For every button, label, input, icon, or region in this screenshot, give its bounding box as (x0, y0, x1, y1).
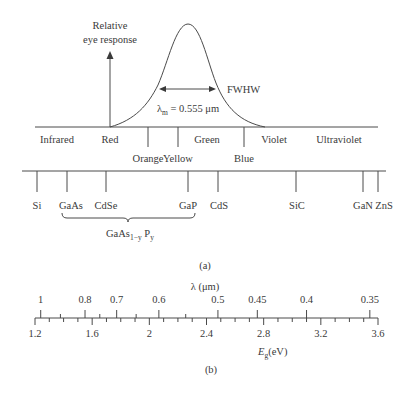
band-blue: Blue (234, 153, 254, 164)
wavelength-tick-label: 0.4 (300, 294, 314, 305)
energy-tick-label: 2.4 (200, 328, 214, 339)
wavelength-tick-label: 1 (38, 294, 43, 305)
wavelength-tick-label: 0.8 (78, 294, 91, 305)
wavelength-axis-label: λ (μm) (191, 281, 220, 293)
band-infrared: Infrared (40, 134, 75, 145)
wavelength-tick-label: 0.35 (361, 294, 379, 305)
band-red: Red (102, 134, 120, 145)
eye-response-section: Relative eye response FWHW λm = 0.555 μm (83, 20, 265, 127)
eye-response-label-line2: eye response (83, 34, 137, 45)
semi-gaas: GaAs (59, 200, 83, 211)
semi-cds: CdS (210, 200, 228, 211)
energy-tick-label: 1.6 (86, 328, 99, 339)
energy-tick-label: 1.2 (28, 328, 41, 339)
axis-section: λ (μm) 1.21.622.42.83.23.610.80.70.60.50… (28, 281, 384, 376)
wavelength-tick-label: 0.6 (152, 294, 165, 305)
fwhw-arrow-left-icon (159, 86, 166, 92)
band-orange: Orange (133, 153, 164, 164)
energy-tick-label: 2.8 (257, 328, 270, 339)
alloy-brace (62, 213, 195, 222)
band-green: Green (194, 134, 220, 145)
wavelength-tick-label: 0.5 (211, 294, 224, 305)
caption-b: (b) (205, 364, 218, 376)
wavelength-tick-label: 0.7 (110, 294, 123, 305)
semi-gan: GaN (353, 200, 373, 211)
band-yellow: Yellow (163, 153, 193, 164)
energy-tick-label: 3.6 (371, 328, 384, 339)
eye-response-label-line1: Relative (93, 20, 128, 31)
peak-wavelength-label: λm = 0.555 μm (157, 103, 219, 117)
axis-ticks: 1.21.622.42.83.23.610.80.70.60.50.450.40… (28, 294, 384, 339)
bandgap-diagram: Relative eye response FWHW λm = 0.555 μm… (0, 0, 414, 398)
wavelength-tick-label: 0.45 (248, 294, 266, 305)
semi-sic: SiC (289, 200, 305, 211)
semi-zns: ZnS (375, 200, 393, 211)
semi-cdse: CdSe (95, 200, 118, 211)
energy-tick-label: 2 (147, 328, 152, 339)
response-axis-arrow-icon (107, 51, 114, 59)
semi-gap: GaP (179, 200, 197, 211)
semiconductor-section: Si GaAs CdSe GaP CdS SiC GaN ZnS GaAs1−y… (22, 171, 393, 272)
band-violet: Violet (261, 134, 287, 145)
semi-si: Si (33, 200, 42, 211)
energy-tick-label: 3.2 (314, 328, 327, 339)
fwhw-label: FWHW (227, 84, 260, 95)
caption-a: (a) (199, 260, 211, 272)
energy-axis-label: Eg(eV) (257, 346, 288, 360)
spectrum-section: Infrared Red Orange Yellow Green Blue Vi… (35, 127, 378, 164)
alloy-label: GaAs1−y Py (106, 228, 154, 242)
fwhw-arrow-right-icon (209, 86, 216, 92)
band-ultraviolet: Ultraviolet (316, 134, 362, 145)
